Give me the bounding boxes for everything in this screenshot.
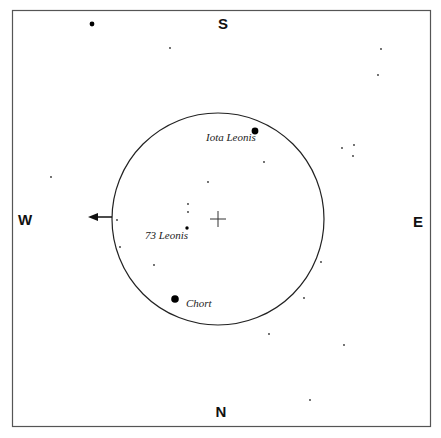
field-star	[116, 219, 118, 221]
field-star	[309, 399, 311, 401]
field-star	[153, 264, 155, 266]
field-star	[353, 144, 355, 146]
field-star	[207, 181, 209, 183]
field-star	[268, 333, 270, 335]
direction-label-top: S	[218, 15, 228, 32]
field-star	[303, 297, 305, 299]
star-label-iota-leonis: Iota Leonis	[205, 131, 256, 143]
field-star	[169, 47, 171, 49]
star-label-73-leonis: 73 Leonis	[145, 229, 188, 241]
direction-label-right: E	[413, 213, 423, 230]
direction-label-left: W	[18, 211, 33, 228]
field-star	[187, 211, 189, 213]
field-star	[263, 161, 265, 163]
star-label-chort: Chort	[186, 297, 213, 309]
field-star	[341, 147, 343, 149]
field-star	[377, 74, 379, 76]
field-star	[343, 344, 345, 346]
star-chort	[171, 295, 179, 303]
direction-label-bottom: N	[216, 403, 227, 420]
field-star	[320, 261, 322, 263]
field-star	[352, 155, 354, 157]
finder-chart: S N W E Iota Leonis 73 Leonis Chort	[0, 0, 441, 438]
field-star	[187, 203, 189, 205]
field-star	[119, 246, 121, 248]
field-star	[90, 22, 95, 27]
field-star	[380, 48, 382, 50]
field-star	[50, 176, 52, 178]
